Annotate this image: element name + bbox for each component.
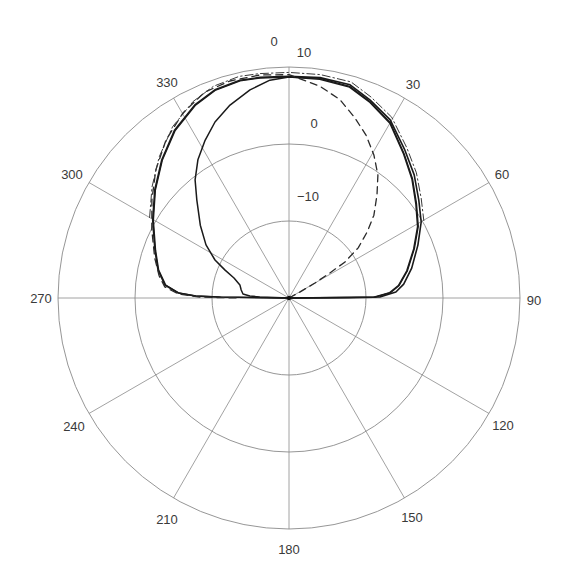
angle-label-210: 210 bbox=[156, 512, 178, 527]
angle-label-300: 300 bbox=[61, 167, 83, 182]
angle-label-120: 120 bbox=[492, 418, 514, 433]
grid-spoke-300 bbox=[89, 183, 289, 299]
series-outer-solid bbox=[153, 76, 422, 298]
polar-chart: 0306090120150180210240270300330 100−10 bbox=[0, 0, 563, 575]
data-series-layer bbox=[150, 72, 424, 300]
angle-label-90: 90 bbox=[527, 293, 541, 308]
angle-tick-labels: 0306090120150180210240270300330 bbox=[30, 34, 541, 557]
grid-spoke-330 bbox=[174, 98, 290, 298]
series-dashed bbox=[152, 75, 378, 298]
grid-spoke-240 bbox=[89, 298, 289, 414]
angle-label-180: 180 bbox=[278, 542, 300, 557]
series-dash-dot bbox=[150, 72, 424, 220]
grid-spoke-210 bbox=[174, 298, 290, 498]
grid-spoke-150 bbox=[289, 298, 405, 498]
grid-spoke-120 bbox=[289, 298, 489, 414]
angle-label-30: 30 bbox=[406, 77, 420, 92]
angle-label-150: 150 bbox=[401, 510, 423, 525]
db-label: 0 bbox=[310, 116, 317, 131]
angle-label-60: 60 bbox=[495, 167, 509, 182]
series-outer-solid-2 bbox=[153, 77, 418, 298]
origin-dot bbox=[287, 296, 291, 300]
angle-label-330: 330 bbox=[156, 75, 178, 90]
angle-label-0: 0 bbox=[270, 34, 277, 49]
polar-plot-canvas: 0306090120150180210240270300330 100−10 bbox=[0, 0, 563, 575]
angle-label-270: 270 bbox=[30, 291, 52, 306]
db-label: 10 bbox=[297, 45, 311, 60]
db-label: −10 bbox=[297, 189, 319, 204]
angle-label-240: 240 bbox=[63, 419, 85, 434]
